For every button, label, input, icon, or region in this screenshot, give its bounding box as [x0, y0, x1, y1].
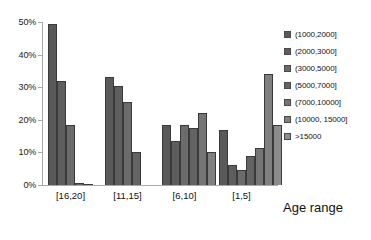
legend-item[interactable]: (3000,5000] [284, 60, 371, 77]
bar [171, 141, 180, 185]
legend-item[interactable]: >15000 [284, 128, 371, 145]
bar [273, 125, 282, 185]
legend-item-label: (7000,10000] [295, 98, 341, 107]
legend-swatch-icon [284, 65, 291, 72]
x-axis-tick-label: [16,20] [42, 190, 99, 201]
legend-swatch-icon [284, 99, 291, 106]
legend-item[interactable]: (1000,2000] [284, 26, 371, 43]
bar-group [162, 22, 216, 185]
plot-area [42, 22, 270, 185]
legend-item[interactable]: (7000,10000] [284, 94, 371, 111]
x-axis-tick-label: [6,10] [156, 190, 213, 201]
x-axis-tick-label: [11,15] [99, 190, 156, 201]
bar [228, 165, 237, 185]
y-axis-tick-mark [38, 185, 42, 186]
bar-chart: 0%10%20%30%40%50% [16,20][11,15][6,10][1… [0, 0, 371, 240]
bar [105, 77, 114, 185]
bar [84, 184, 93, 185]
legend-item[interactable]: (5000,7000] [284, 77, 371, 94]
y-axis-tick-label: 20% [19, 115, 36, 125]
y-axis-tick-label: 10% [19, 147, 36, 157]
legend-swatch-icon [284, 82, 291, 89]
y-axis-tick-label: 30% [19, 82, 36, 92]
bar [114, 86, 123, 185]
bar [264, 74, 273, 185]
legend-item[interactable]: (10000, 15000] [284, 111, 371, 128]
bar [219, 130, 228, 185]
legend-item-label: (1000,2000] [295, 30, 337, 39]
chart-legend: (1000,2000](2000,3000](3000,5000](5000,7… [284, 26, 371, 145]
bar [189, 128, 198, 185]
bar [246, 156, 255, 185]
legend-item-label: (5000,7000] [295, 81, 337, 90]
bar [132, 152, 141, 185]
legend-item-label: (3000,5000] [295, 64, 337, 73]
bar [207, 152, 216, 185]
bar [75, 183, 84, 185]
bar [255, 148, 264, 185]
y-axis-tick-label: 50% [19, 17, 36, 27]
x-axis-line [42, 185, 278, 186]
y-axis-tick-label: 40% [19, 50, 36, 60]
bar [237, 170, 246, 185]
legend-swatch-icon [284, 116, 291, 123]
bar-group [219, 22, 282, 185]
bar [48, 24, 57, 185]
legend-item-label: (10000, 15000] [295, 115, 347, 124]
bar-group [48, 22, 93, 185]
bar [57, 81, 66, 185]
legend-item-label: (2000,3000] [295, 47, 337, 56]
x-axis-tick-label: [1,5] [213, 190, 270, 201]
x-axis-title: Age range [283, 200, 343, 215]
bar [162, 125, 171, 185]
legend-item[interactable]: (2000,3000] [284, 43, 371, 60]
legend-swatch-icon [284, 48, 291, 55]
y-axis-tick-label: 0% [23, 180, 36, 190]
bar [66, 125, 75, 185]
bar [123, 102, 132, 185]
bar [198, 113, 207, 185]
bar [180, 125, 189, 185]
bar-group [105, 22, 141, 185]
legend-item-label: >15000 [295, 132, 321, 141]
legend-swatch-icon [284, 31, 291, 38]
legend-swatch-icon [284, 133, 291, 140]
